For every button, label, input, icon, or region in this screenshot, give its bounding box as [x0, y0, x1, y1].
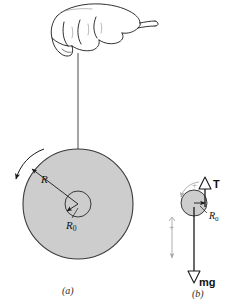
- figure-canvas: [0, 0, 232, 307]
- label-positive-translation: +: [169, 222, 174, 232]
- label-tension-T: T: [213, 178, 220, 190]
- label-radius-R: R: [41, 173, 48, 185]
- label-radius-R0-panel-a: R0: [66, 219, 77, 233]
- physics-figure: R R0 R0 T mg + + (a) (b): [0, 0, 232, 307]
- label-weight-mg: mg: [199, 276, 216, 288]
- label-radius-R0-panel-b-sub: 0: [215, 215, 219, 223]
- label-radius-R0-panel-a-main: R: [66, 219, 73, 231]
- label-positive-rotation: +: [192, 180, 197, 190]
- caption-panel-b: (b): [192, 288, 204, 299]
- tension-arrow-head: [199, 177, 211, 189]
- caption-panel-a: (a): [62, 285, 74, 296]
- label-radius-R0-panel-a-sub: 0: [73, 224, 77, 233]
- hand-icon: [51, 4, 158, 56]
- label-radius-R0-panel-b: R0: [209, 210, 219, 223]
